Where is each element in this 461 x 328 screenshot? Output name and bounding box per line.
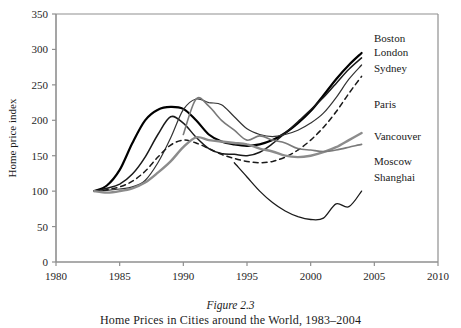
x-tick-label: 1980 [45,270,68,282]
x-tick-label: 1985 [109,270,132,282]
figure-caption-subtitle: Home Prices in Cities around the World, … [0,313,461,328]
legend-label-shanghai: Shanghai [374,171,415,183]
x-tick-label: 2005 [363,270,386,282]
y-tick-label: 300 [32,43,49,55]
x-tick-label: 1990 [172,270,195,282]
y-tick-label: 150 [32,150,49,162]
y-axis-title: Home price index [6,98,18,177]
y-tick-label: 0 [43,256,49,268]
legend-label-paris: Paris [374,98,396,110]
y-tick-label: 350 [32,8,49,20]
figure-caption-title: Figure 2.3 [0,299,461,311]
x-tick-label: 2000 [300,270,323,282]
y-tick-label: 200 [32,114,49,126]
legend-label-london: London [374,46,409,58]
legend-label-boston: Boston [374,32,406,44]
x-tick-label: 2010 [427,270,450,282]
y-tick-label: 250 [32,79,49,91]
legend-label-sydney: Sydney [374,62,408,74]
y-tick-label: 50 [37,221,49,233]
y-tick-label: 100 [32,185,49,197]
x-tick-label: 1995 [236,270,259,282]
legend-label-vancouver: Vancouver [374,130,421,142]
legend-label-moscow: Moscow [374,155,412,167]
